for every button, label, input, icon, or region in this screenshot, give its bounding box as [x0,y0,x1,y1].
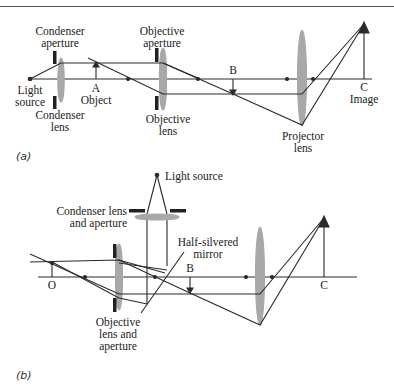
illum-ray-left [147,175,157,214]
label-light-source-b: Light source [165,170,223,182]
label-light-source-a: Light source [10,84,50,108]
panel-tag-a: (a) [16,150,31,163]
projector-lens-a [298,30,307,126]
label-line: Light [10,84,50,96]
microscope-ray-diagram [0,0,394,386]
focal-point-a3 [286,78,289,81]
label-line: C [346,81,382,93]
objective-aperture-top-b [113,244,117,258]
focal-point-b1 [84,276,87,279]
ray-chief-a [88,24,364,94]
label-line: aperture [90,340,146,352]
ray-lower-b1 [52,262,147,304]
condenser-aperture-bottom-a [53,96,57,109]
label-line: lens [138,125,198,137]
label-line: Image [346,93,382,105]
label-line: A [76,82,116,94]
label-line: lens and [90,328,146,340]
condenser-aperture-top-a [53,51,57,64]
label-c-b: C [317,279,331,291]
objective-aperture-bottom-a [155,96,159,110]
ray-upper-b2 [119,263,167,270]
objective-aperture-top-a [155,48,159,62]
label-objective-aperture: Objective aperture [132,25,192,49]
label-line: mirror [172,248,244,260]
label-line: lens [34,121,86,133]
focal-point-b3 [245,276,248,279]
label-line: Object [76,94,116,106]
label-image-a: C Image [346,81,382,105]
label-line: lens [277,142,329,154]
condenser-aperture-left-b [129,209,145,213]
label-object-a: A Object [76,82,116,106]
label-line: Condenser [34,109,86,121]
focal-point-a1 [127,78,130,81]
label-condenser-b: Condenser lens and aperture [55,205,127,229]
light-source-point-b [155,173,159,177]
label-line: Condenser lens [55,205,127,217]
condenser-lens-b [135,214,179,220]
light-source-point-a [28,77,32,81]
object-point-b [51,262,54,265]
condenser-aperture-right-b [170,209,186,213]
label-objective-b: Objective lens and aperture [90,316,146,352]
focal-point-a4 [312,78,315,81]
label-line: Objective [138,113,198,125]
panel-tag-b: (b) [16,369,32,382]
label-condenser-aperture: Condenser aperture [26,25,94,49]
label-b-a: B [226,64,240,76]
objective-lens-b [116,244,123,310]
objective-aperture-bottom-b [113,298,117,312]
ray-lower-b2 [119,218,324,325]
focal-point-a2 [197,78,200,81]
label-objective-lens-a: Objective lens [138,113,198,137]
label-b-b: B [183,262,197,274]
label-line: Objective [90,316,146,328]
focal-point-b4 [271,276,274,279]
label-line: Half-silvered [172,236,244,248]
label-line: Condenser [26,25,94,37]
label-condenser-lens: Condenser lens [34,109,86,133]
label-line: Objective [132,25,192,37]
focal-point-b2 [154,276,157,279]
label-line: Projector [277,130,329,142]
label-line: source [10,96,50,108]
label-line: and aperture [55,217,127,229]
projector-lens-b [256,227,265,325]
label-projector-lens: Projector lens [277,130,329,154]
label-line: aperture [26,37,94,49]
label-line: aperture [132,37,192,49]
objective-lens-a [159,48,166,110]
label-o-b: O [45,279,59,291]
label-mirror: Half-silvered mirror [172,236,244,260]
